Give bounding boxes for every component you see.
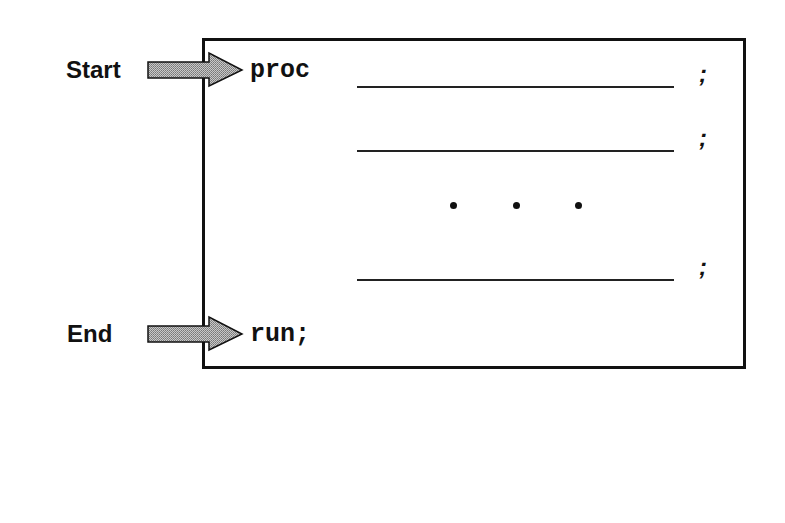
statement-terminator-1: ; <box>699 60 707 88</box>
run-statement: run; <box>250 320 310 349</box>
statement-terminator-2: ; <box>699 124 707 152</box>
statement-terminator-3: ; <box>699 253 707 281</box>
ellipsis-dot <box>575 202 582 209</box>
statement-blank-3 <box>357 279 674 281</box>
start-label: Start <box>66 56 121 84</box>
ellipsis-dot <box>513 202 520 209</box>
start-arrow-icon <box>147 52 247 88</box>
proc-keyword: proc <box>250 56 310 85</box>
statement-blank-1 <box>357 86 674 88</box>
end-label: End <box>67 320 112 348</box>
ellipsis-dot <box>450 202 457 209</box>
statement-blank-2 <box>357 150 674 152</box>
end-arrow-icon <box>147 316 247 352</box>
